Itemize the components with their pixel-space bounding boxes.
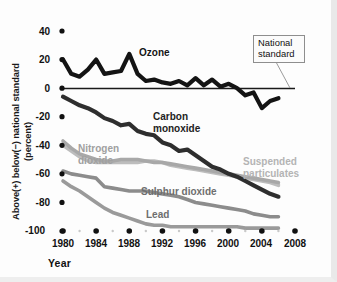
x-minor-tick-dot [112,230,114,232]
series-label-suspended-particulates: Suspended particulates [243,156,299,179]
x-minor-tick-dot [178,230,180,232]
x-tick-dot [160,228,166,234]
y-tick-dot [59,57,64,62]
x-tick-dot [93,228,99,234]
callout-line1: National [258,37,292,48]
x-tick-label-1988: 1988 [112,238,146,249]
x-tick-label-2004: 2004 [244,238,278,249]
y-tick-label-minus20: -20 [16,111,50,122]
y-tick-dot [59,143,64,148]
y-tick-label-minus100: -100 [11,225,45,236]
series-label-nitrogen-dioxide-line1: Nitrogen [78,143,119,154]
series-layer [63,54,278,228]
y-tick-dot [59,114,64,119]
x-tick-dot [259,228,265,234]
x-tick-dot [193,228,199,234]
x-minor-tick-dot [145,230,147,232]
series-label-sulphur-dioxide: Sulphur dioxide [141,186,217,198]
series-line-ozone [63,54,278,108]
x-tick-label-2000: 2000 [211,238,245,249]
y-tick-dot [59,200,64,205]
x-tick-dot [226,228,232,234]
x-tick-dot [292,228,298,234]
x-tick-marks [60,228,298,234]
y-tick-label-minus40: -40 [16,140,50,151]
y-tick-label-minus80: -80 [16,197,50,208]
y-tick-dot [59,228,64,233]
series-label-nitrogen-dioxide: Nitrogen dioxide [78,143,119,166]
x-tick-label-1996: 1996 [178,238,212,249]
x-minor-tick-dot [78,230,80,232]
x-tick-dot [126,228,132,234]
series-label-carbon-monoxide: Carbon monoxide [153,111,200,134]
series-label-carbon-monoxide-line2: monoxide [153,123,200,134]
national-standard-callout: National standard [253,35,305,63]
x-tick-label-1980: 1980 [46,238,80,249]
callout-line2: standard [258,48,294,59]
x-tick-label-2008: 2008 [278,238,312,249]
series-label-suspended-particulates-line1: Suspended [243,156,297,167]
y-tick-marks [59,28,64,233]
y-tick-dot [59,28,64,33]
series-label-carbon-monoxide-line1: Carbon [153,111,188,122]
series-label-suspended-particulates-line2: particulates [243,168,299,179]
x-axis-title: Year [48,257,71,269]
y-tick-label-40: 40 [16,26,50,37]
y-tick-label-minus60: -60 [16,168,50,179]
y-tick-dot [59,171,64,176]
y-tick-label-0: 0 [16,83,50,94]
series-label-ozone: Ozone [139,47,170,59]
series-label-lead: Lead [146,209,169,221]
x-minor-tick-dot [244,230,246,232]
x-tick-label-1992: 1992 [145,238,179,249]
y-tick-label-20: 20 [16,54,50,65]
chart-screenshot: Above(+) below(−) national standard (per… [0,0,337,282]
x-minor-tick-dot [277,230,279,232]
y-tick-dot [59,86,64,91]
x-minor-tick-dot [211,230,213,232]
series-label-nitrogen-dioxide-line2: dioxide [78,155,113,166]
callout-leader-line [276,62,290,88]
x-tick-label-1984: 1984 [79,238,113,249]
